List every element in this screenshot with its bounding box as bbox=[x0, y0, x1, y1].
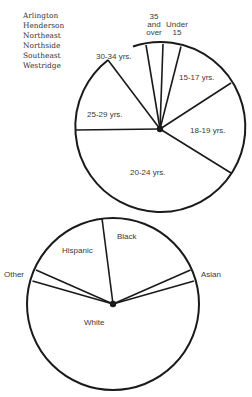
slice-divider bbox=[113, 281, 194, 304]
charts-canvas: 35 and over Under 15 30-34 yrs. 15-17 yr… bbox=[0, 0, 252, 397]
slice-divider bbox=[102, 219, 113, 305]
label-25-29: 25-29 yrs. bbox=[87, 110, 123, 119]
age-pie-labels: 35 and over Under 15 30-34 yrs. 15-17 yr… bbox=[87, 12, 226, 177]
label-20-24: 20-24 yrs. bbox=[130, 168, 166, 177]
label-18-19: 18-19 yrs. bbox=[190, 126, 226, 135]
label-35-and-over: over bbox=[146, 28, 162, 37]
label-hispanic: Hispanic bbox=[62, 246, 93, 255]
slice-divider bbox=[113, 270, 191, 304]
label-30-34: 30-34 yrs. bbox=[96, 52, 132, 61]
slice-divider bbox=[36, 270, 113, 304]
label-under-15: 15 bbox=[173, 28, 182, 37]
pie-center-dot bbox=[157, 126, 163, 132]
slice-divider bbox=[146, 45, 160, 129]
slice-divider bbox=[75, 129, 160, 130]
label-other: Other bbox=[4, 270, 24, 279]
label-asian: Asian bbox=[201, 270, 221, 279]
slice-divider bbox=[33, 281, 114, 304]
race-pie-labels: Black Hispanic Other Asian White bbox=[4, 232, 221, 327]
label-black: Black bbox=[117, 232, 138, 241]
pie-center-dot bbox=[110, 301, 116, 307]
label-white: White bbox=[84, 318, 105, 327]
slice-divider bbox=[160, 129, 231, 173]
label-15-17: 15-17 yrs. bbox=[179, 73, 215, 82]
race-pie-chart bbox=[27, 218, 199, 390]
